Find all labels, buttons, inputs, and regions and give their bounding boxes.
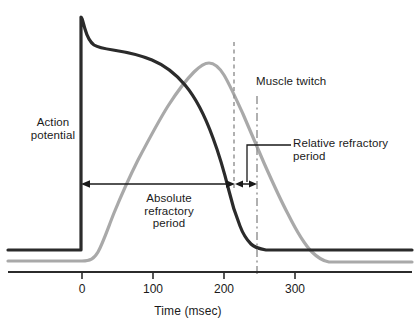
x-tick-label-0: 0 [62,282,102,296]
absolute-refractory-period-label: Absolute refractory period [128,192,210,230]
muscle-twitch-label: Muscle twitch [256,75,356,88]
relative-refractory-period-label: Relative refractory period [293,137,413,162]
x-tick-label-200: 200 [204,282,244,296]
muscle-twitch-curve [8,63,412,262]
absolute-refractory-arrow [81,180,235,188]
figure-container: 0 100 200 300 Time (msec) Action potenti… [0,0,417,331]
x-tick-label-300: 300 [275,282,315,296]
x-tick-label-100: 100 [133,282,173,296]
relative-refractory-arrow [235,180,257,187]
x-axis-title: Time (msec) [128,305,248,318]
action-potential-label: Action potential [14,116,92,141]
